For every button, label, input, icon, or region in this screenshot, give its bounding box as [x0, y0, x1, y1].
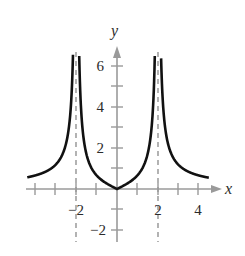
y-axis-label: y [109, 22, 119, 40]
x-tick-label-neg2: −2 [68, 202, 84, 218]
x-tick-label-2: 2 [154, 202, 162, 218]
function-curve [27, 55, 209, 189]
y-axis [111, 46, 123, 242]
y-axis-arrow-icon [113, 46, 121, 58]
x-axis-arrow-icon [211, 185, 222, 193]
y-tick-label-4: 4 [97, 99, 105, 115]
function-graph: x y −2 2 4 6 4 2 −2 [0, 0, 245, 256]
x-tick-label-4: 4 [194, 202, 202, 218]
curve-branch [161, 58, 209, 177]
y-tick-label-2: 2 [97, 140, 105, 156]
y-tick-label-neg2: −2 [90, 222, 106, 238]
curve-branch [27, 55, 73, 178]
y-tick-label-6: 6 [97, 58, 105, 74]
x-axis-label: x [224, 180, 232, 197]
